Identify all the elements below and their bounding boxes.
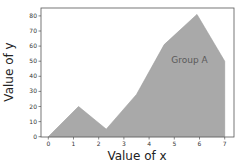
x-tick-label: 1 (72, 140, 76, 147)
area-series-group-a (48, 14, 224, 136)
y-tick-label: 20 (29, 103, 37, 110)
x-tick-label: 4 (147, 140, 151, 147)
y-tick-label: 0 (33, 133, 37, 140)
y-tick-label: 80 (29, 12, 37, 19)
area-chart: 01234567 01020304050607080 Group A Value… (0, 0, 246, 167)
plot-area (41, 8, 234, 137)
x-tick-label: 3 (122, 140, 126, 147)
y-tick-label: 60 (29, 42, 37, 49)
x-tick-label: 0 (46, 140, 50, 147)
x-axis-title: Value of x (107, 149, 166, 163)
y-axis-title: Value of y (2, 42, 16, 101)
x-tick-label: 2 (97, 140, 101, 147)
y-tick-label: 30 (29, 87, 37, 94)
x-tick-label: 6 (198, 140, 202, 147)
y-tick-label: 40 (29, 72, 37, 79)
y-tick-label: 50 (29, 57, 37, 64)
y-axis-ticks: 01020304050607080 (29, 12, 41, 140)
x-axis-ticks: 01234567 (46, 137, 226, 147)
y-tick-label: 10 (29, 118, 37, 125)
y-tick-label: 70 (29, 27, 37, 34)
x-tick-label: 5 (172, 140, 176, 147)
x-tick-label: 7 (223, 140, 227, 147)
series-label-group-a: Group A (171, 55, 208, 65)
